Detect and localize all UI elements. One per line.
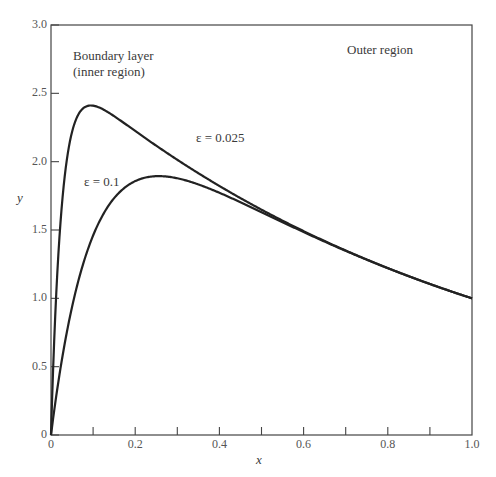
curve-eps-0.025 [51,105,472,435]
x-tick-label: 1.0 [457,437,487,452]
x-axis-label: x [256,452,262,468]
annotation-inner-region: (inner region) [73,64,145,80]
y-tick-label: 2.0 [17,154,47,169]
label-eps-0.025: ε = 0.025 [196,130,245,146]
y-tick-label: 0.5 [17,359,47,374]
x-tick-label: 0.6 [289,437,319,452]
x-tick-label: 0 [36,437,66,452]
annotation-outer-region: Outer region [347,42,413,58]
y-tick-label: 1.0 [17,290,47,305]
y-axis-label: y [17,190,23,206]
axis-ticks [51,25,430,435]
y-tick-label: 3.0 [17,17,47,32]
annotation-boundary-layer: Boundary layer [73,48,154,64]
axes-frame [51,25,472,435]
label-eps-0.1: ε = 0.1 [84,174,120,190]
x-tick-label: 0.4 [204,437,234,452]
y-tick-label: 2.5 [17,85,47,100]
curve-eps-0.1 [51,176,472,435]
y-tick-label: 1.5 [17,222,47,237]
x-tick-label: 0.8 [373,437,403,452]
x-tick-label: 0.2 [120,437,150,452]
